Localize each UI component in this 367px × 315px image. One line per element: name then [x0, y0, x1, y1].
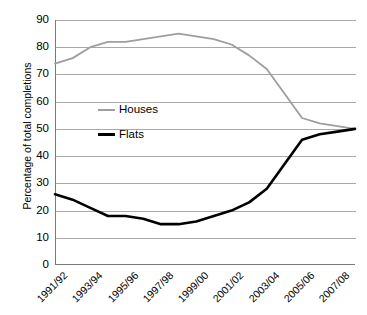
- chart-legend: Houses Flats: [98, 104, 158, 140]
- y-tick-label: 30: [9, 177, 49, 189]
- y-tick-label: 80: [9, 41, 49, 53]
- series-layer: [55, 20, 355, 265]
- y-tick-label: 40: [9, 150, 49, 162]
- chart-container: Percentage of total completions 01020304…: [0, 0, 367, 315]
- y-tick-label: 60: [9, 96, 49, 108]
- y-axis-title: Percentage of total completions: [21, 21, 33, 251]
- y-tick-label: 70: [9, 68, 49, 80]
- y-tick-label: 0: [9, 259, 49, 271]
- y-tick-label: 20: [9, 205, 49, 217]
- y-tick-label: 10: [9, 232, 49, 244]
- legend-line-flats-icon: [98, 133, 115, 136]
- y-tick-label: 50: [9, 123, 49, 135]
- legend-label-flats: Flats: [119, 129, 144, 141]
- legend-line-houses-icon: [98, 109, 115, 111]
- y-tick-label: 90: [9, 14, 49, 26]
- legend-item-flats: Flats: [98, 129, 158, 141]
- legend-label-houses: Houses: [119, 104, 158, 116]
- legend-item-houses: Houses: [98, 104, 158, 116]
- series-line-flats: [55, 129, 355, 224]
